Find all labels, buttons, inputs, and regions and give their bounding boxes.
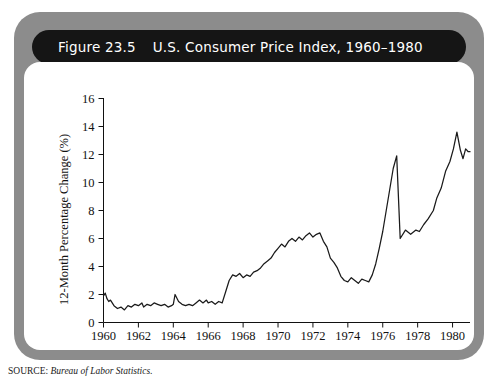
- figure-title-text: U.S. Consumer Price Index, 1960–1980: [153, 39, 423, 55]
- source-label: SOURCE:: [8, 366, 48, 376]
- figure-number-label: Figure 23.5: [58, 39, 136, 55]
- source-note: SOURCE: Bureau of Labor Statistics.: [8, 366, 153, 376]
- chart-panel: [24, 62, 474, 350]
- source-text: Bureau of Labor Statistics.: [48, 366, 152, 376]
- figure-title-bar: Figure 23.5 U.S. Consumer Price Index, 1…: [32, 30, 466, 64]
